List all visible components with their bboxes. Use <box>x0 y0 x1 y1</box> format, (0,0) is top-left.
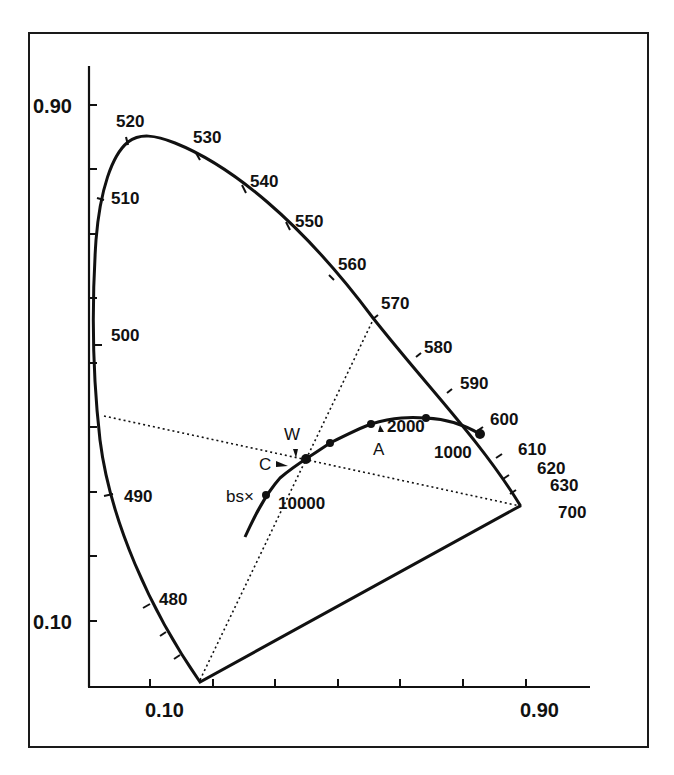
wavelength-490: 490 <box>124 487 152 506</box>
temp-10000-label: 10000 <box>278 494 325 513</box>
wavelength-610: 610 <box>518 440 546 459</box>
illuminant-bs-label: bs× <box>226 487 254 506</box>
x-ticks <box>150 679 526 687</box>
illuminant-c-label: C <box>259 455 271 474</box>
y-axis-label-bottom: 0.10 <box>33 611 72 633</box>
point-10000k <box>301 454 311 464</box>
temp-1000-label: 1000 <box>434 443 472 462</box>
point-1000k <box>475 429 485 439</box>
wavelength-630: 630 <box>550 476 578 495</box>
wavelength-550: 550 <box>295 212 323 231</box>
wavelength-540: 540 <box>250 172 278 191</box>
wavelength-500: 500 <box>111 326 139 345</box>
wavelength-580: 580 <box>424 338 452 357</box>
point-3000k <box>367 420 375 428</box>
wavelength-570: 570 <box>381 294 409 313</box>
wavelength-600: 600 <box>490 410 518 429</box>
wavelength-700: 700 <box>558 503 586 522</box>
point-6000k <box>326 439 334 447</box>
x-axis-label-right: 0.90 <box>520 699 559 721</box>
y-axis-label-top: 0.90 <box>33 95 72 117</box>
arrow-c-icon <box>276 461 288 467</box>
wavelength-480: 480 <box>159 590 187 609</box>
wavelength-560: 560 <box>338 255 366 274</box>
wavelength-530: 530 <box>193 128 221 147</box>
chromaticity-chart: 0.90 0.10 0.10 0.90 480 490 500 510 520 <box>0 0 674 775</box>
arrow-a-icon <box>378 425 384 432</box>
point-bs <box>262 491 270 499</box>
temp-2000-label: 2000 <box>387 417 425 436</box>
illuminant-w-label: W <box>284 425 300 444</box>
wavelength-labels: 480 490 500 510 520 530 540 550 560 570 … <box>111 112 586 609</box>
wavelength-510: 510 <box>111 189 139 208</box>
illuminant-a-label: A <box>373 440 385 459</box>
wavelength-520: 520 <box>116 112 144 131</box>
x-axis-label-left: 0.10 <box>145 699 184 721</box>
wavelength-590: 590 <box>460 374 488 393</box>
planckian-locus <box>245 418 480 537</box>
